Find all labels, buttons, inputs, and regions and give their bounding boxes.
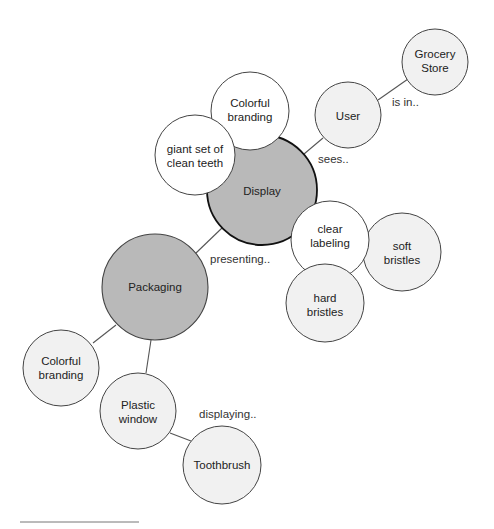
svg-text:Store: Store	[421, 62, 449, 74]
edge-label-sees: sees..	[318, 153, 349, 165]
edge-packaging-plastic-window	[146, 340, 151, 373]
node-packaging: Packaging	[102, 234, 208, 340]
svg-text:Packaging: Packaging	[128, 281, 182, 293]
svg-text:Colorful: Colorful	[230, 97, 270, 109]
svg-text:labeling: labeling	[310, 237, 350, 249]
edge-plastic-window-toothbrush	[170, 433, 191, 441]
svg-text:Colorful: Colorful	[41, 355, 81, 367]
edge-packaging-colorful-branding	[93, 325, 116, 343]
edge-display-user	[304, 138, 323, 154]
svg-text:Toothbrush: Toothbrush	[194, 459, 251, 471]
svg-text:Plastic: Plastic	[121, 399, 155, 411]
edge-label-displaying: displaying..	[199, 408, 257, 420]
edge-label-presenting: presenting..	[210, 253, 270, 265]
node-plastic-window: Plastic window	[100, 373, 176, 449]
svg-text:window: window	[118, 413, 158, 425]
node-soft-bristles: soft bristles	[363, 213, 441, 291]
node-giant-set-of-clean-teeth: giant set of clean teeth	[155, 115, 235, 195]
svg-text:clear: clear	[318, 223, 343, 235]
node-user: User	[315, 82, 381, 148]
edge-label-is-in: is in..	[392, 96, 419, 108]
node-grocery-store: Grocery Store	[402, 29, 468, 95]
node-hard-bristles: hard bristles	[286, 264, 364, 342]
node-toothbrush: Toothbrush	[183, 426, 261, 504]
svg-text:Display: Display	[243, 185, 281, 197]
svg-text:hard: hard	[313, 292, 336, 304]
svg-text:clean teeth: clean teeth	[167, 157, 223, 169]
svg-text:soft: soft	[393, 240, 412, 252]
svg-text:bristles: bristles	[384, 254, 421, 266]
svg-text:branding: branding	[228, 111, 273, 123]
svg-text:User: User	[336, 110, 360, 122]
svg-text:Grocery: Grocery	[415, 48, 456, 60]
svg-text:branding: branding	[39, 369, 84, 381]
node-colorful-branding-bottom: Colorful branding	[23, 330, 99, 406]
svg-text:bristles: bristles	[307, 306, 344, 318]
edge-packaging-display	[196, 228, 222, 253]
bubble-map-diagram: is in.. sees.. presenting.. displaying..…	[0, 0, 494, 529]
svg-text:giant set of: giant set of	[167, 143, 224, 155]
